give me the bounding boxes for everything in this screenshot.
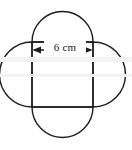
right-semicircle-shape [93, 42, 125, 107]
geometry-figure: 6 cm [0, 0, 132, 150]
dimension-label: 6 cm [44, 41, 86, 54]
arrowhead-left-icon [33, 46, 42, 53]
left-semicircle-shape [0, 42, 32, 107]
figure-canvas [0, 0, 132, 150]
top-semicircle-shape [32, 11, 93, 42]
bottom-semicircle-shape [32, 107, 93, 138]
semicircle-group [0, 11, 125, 137]
